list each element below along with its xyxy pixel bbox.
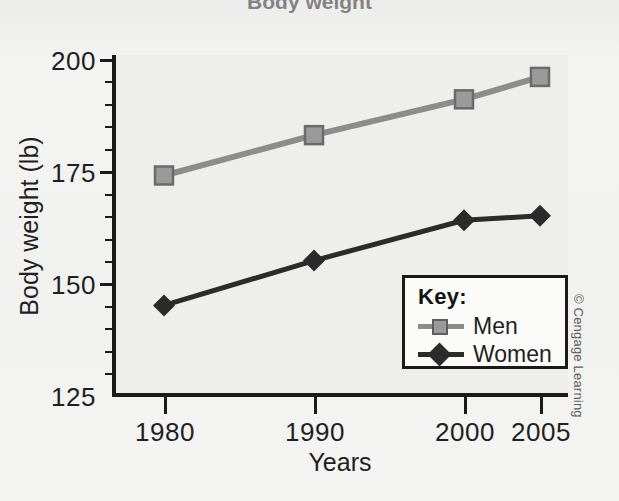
y-minor-tick-180	[105, 149, 116, 151]
y-minor-tick-140	[105, 328, 116, 330]
y-minor-tick-195	[105, 81, 116, 83]
x-tick-label-1990: 1990	[285, 417, 345, 448]
y-tick-label-175: 175	[51, 158, 96, 189]
y-minor-tick-145	[105, 306, 116, 308]
y-minor-tick-130	[105, 373, 116, 375]
legend-swatch-men-icon	[418, 316, 464, 336]
x-tick-2000	[464, 397, 467, 414]
y-axis-title: Body weight (lb)	[14, 55, 44, 397]
x-tick-label-2000: 2000	[435, 417, 495, 448]
y-minor-tick-185	[105, 126, 116, 128]
x-tick-label-2005: 2005	[511, 417, 571, 448]
y-major-tick-200	[100, 59, 116, 62]
y-tick-label-125: 125	[51, 382, 96, 413]
x-tick-2005	[540, 397, 543, 414]
legend-item-men: Men	[418, 312, 565, 340]
y-minor-tick-165	[105, 216, 116, 218]
legend-swatch-women-icon	[418, 344, 464, 364]
x-tick-1990	[314, 397, 317, 414]
y-major-tick-150	[100, 283, 116, 286]
legend-box: Key: Men Women	[402, 275, 568, 369]
legend-title: Key:	[418, 284, 565, 310]
x-tick-label-1980: 1980	[135, 417, 195, 448]
y-minor-tick-160	[105, 239, 116, 241]
chart-title-text: Body weight	[0, 0, 619, 12]
x-tick-1980	[164, 397, 167, 414]
x-axis-title: Years	[112, 448, 568, 477]
y-minor-tick-190	[105, 104, 116, 106]
figure-container: Body weight 200 175 150 125 Body weight …	[0, 0, 619, 501]
chart-title-clipped: Body weight	[0, 0, 619, 14]
legend-label-men: Men	[473, 315, 518, 338]
copyright-credit: © Cengage Learning	[568, 294, 586, 454]
y-minor-tick-170	[105, 194, 116, 196]
y-minor-tick-135	[105, 351, 116, 353]
y-tick-label-200: 200	[51, 46, 96, 77]
y-major-tick-175	[100, 171, 116, 174]
legend-item-women: Women	[418, 340, 565, 368]
legend-label-women: Women	[473, 343, 552, 366]
y-minor-tick-155	[105, 261, 116, 263]
y-tick-label-150: 150	[51, 270, 96, 301]
